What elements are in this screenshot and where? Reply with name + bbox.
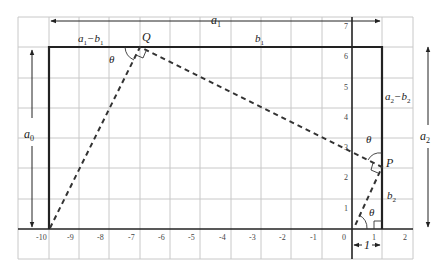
angle-arc-origin	[359, 215, 367, 229]
svg-text:-6: -6	[158, 233, 165, 242]
svg-text:-7: -7	[128, 233, 135, 242]
label-point-q: Q	[142, 30, 151, 44]
geometry-diagram: -10 -9 -8 -7 -6 -5 -4 -3 -2 -1 0 1 2 1 2…	[0, 0, 446, 271]
angle-arc-p	[368, 153, 382, 160]
grid	[18, 17, 413, 259]
svg-text:2: 2	[403, 233, 407, 242]
svg-text:7: 7	[344, 22, 348, 31]
svg-text:0: 0	[342, 233, 346, 242]
label-b2: b2	[387, 189, 397, 204]
angle-arc-q	[125, 47, 134, 60]
svg-text:-8: -8	[97, 233, 104, 242]
label-point-p: P	[385, 156, 394, 170]
label-a1-minus-b1: a1−b1	[78, 32, 104, 47]
label-theta-origin: θ	[369, 206, 375, 218]
label-a2: a2	[420, 129, 430, 145]
label-theta-p: θ	[366, 133, 372, 145]
svg-text:-10: -10	[36, 233, 47, 242]
right-angle-corner	[374, 221, 382, 229]
svg-text:-4: -4	[219, 233, 226, 242]
label-unit-width: 1	[364, 238, 370, 252]
svg-text:1: 1	[344, 204, 348, 213]
svg-text:-3: -3	[249, 233, 256, 242]
right-angle-q	[136, 51, 146, 58]
svg-text:5: 5	[344, 83, 348, 92]
svg-text:4: 4	[344, 113, 348, 122]
svg-text:3: 3	[344, 143, 348, 152]
svg-text:1: 1	[372, 233, 376, 242]
svg-text:6: 6	[344, 52, 348, 61]
label-a0: a0	[24, 127, 34, 143]
y-tick-labels: 1 2 3 4 5 6 7	[344, 22, 348, 213]
label-theta-q: θ	[109, 53, 115, 65]
svg-text:-2: -2	[279, 233, 286, 242]
svg-text:2: 2	[344, 173, 348, 182]
svg-text:-5: -5	[188, 233, 195, 242]
label-a1: a1	[211, 13, 221, 29]
svg-text:-1: -1	[310, 233, 317, 242]
label-b1: b1	[255, 32, 265, 47]
label-a2-minus-b2: a2−b2	[385, 90, 411, 105]
svg-text:-9: -9	[67, 233, 74, 242]
